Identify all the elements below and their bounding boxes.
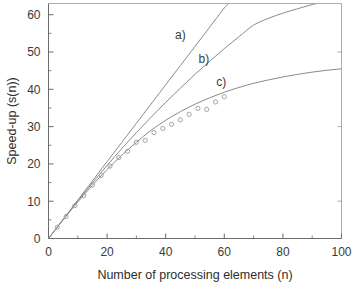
- curve-label-c: c): [216, 75, 226, 89]
- x-tick-label: 0: [45, 245, 52, 259]
- x-tick-label: 60: [218, 245, 232, 259]
- y-tick-label: 0: [34, 232, 41, 246]
- data-point-marker: [222, 95, 226, 99]
- data-point-marker: [196, 106, 200, 110]
- x-axis-title: Number of processing elements (n): [97, 268, 292, 282]
- curve-label-b: b): [198, 52, 209, 66]
- plot-axes: [49, 4, 342, 239]
- data-point-marker: [187, 112, 191, 116]
- y-tick-label: 60: [27, 8, 41, 22]
- data-point-marker: [205, 107, 209, 111]
- speedup-chart-svg: 0102030405060020406080100Number of proce…: [0, 0, 355, 286]
- curve-c: [49, 69, 342, 239]
- y-tick-label: 40: [27, 83, 41, 97]
- y-tick-label: 30: [27, 120, 41, 134]
- x-tick-label: 80: [276, 245, 290, 259]
- data-point-marker: [213, 100, 217, 104]
- curve-label-a: a): [175, 28, 186, 42]
- y-tick-label: 50: [27, 45, 41, 59]
- y-tick-label: 10: [27, 195, 41, 209]
- data-point-marker: [143, 138, 147, 142]
- data-point-marker: [169, 122, 173, 126]
- x-tick-label: 40: [159, 245, 173, 259]
- data-point-marker: [152, 130, 156, 134]
- plot-frame-box: [49, 4, 342, 239]
- y-tick-label: 20: [27, 157, 41, 171]
- data-point-marker: [178, 118, 182, 122]
- x-tick-label: 20: [100, 245, 114, 259]
- y-axis-title: Speed-up (s(n)): [5, 77, 19, 165]
- x-tick-label: 100: [331, 245, 351, 259]
- data-point-marker: [161, 126, 165, 130]
- chart-figure: 0102030405060020406080100Number of proce…: [0, 0, 355, 286]
